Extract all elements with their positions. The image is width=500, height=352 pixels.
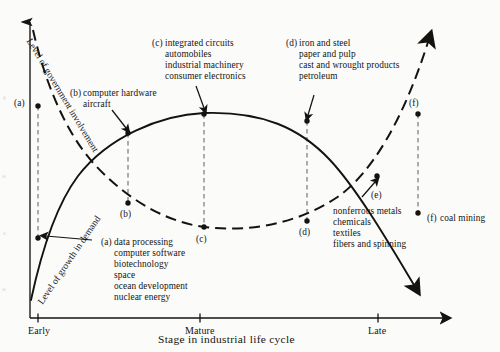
x-tick-late: Late [368,325,386,337]
callout-d: (d) iron and steel paper and pulp cast a… [286,38,399,82]
callout-c-tag: (c) [152,38,165,49]
callout-a-item-1: computer software [114,248,188,259]
callout-e-item-2: textiles [333,228,406,239]
callout-f-tag: (f) [427,213,440,224]
callout-c-item-0: integrated circuits [165,38,246,49]
x-axis [30,314,443,323]
diagram-canvas [0,0,500,352]
leader-c [196,86,204,108]
marker-c-bottom [201,224,206,229]
callout-a: (a) data processing computer software bi… [101,237,188,303]
callout-b-tag: (b) [70,88,83,99]
callout-f-item-0: coal mining [440,213,485,224]
callout-c: (c) integrated circuits automobiles indu… [152,38,246,82]
callout-e-item-3: fibers and spinning [333,239,406,250]
scan-artifact [3,96,6,100]
callout-c-item-3: consumer electronics [165,71,246,82]
callout-d-item-0: iron and steel [299,38,399,49]
callout-d-item-1: paper and pulp [299,49,399,60]
callout-a-item-4: ocean development [114,281,188,292]
marker-d-top [304,118,309,123]
marker-f-bottom [415,210,420,215]
scan-artifact [3,232,6,235]
callout-a-item-5: nuclear energy [114,292,188,303]
point-label-f: (f) [409,98,419,109]
callout-b: (b) computer hardware aircraft [70,88,157,110]
callout-e: nonferrous metals chemicals textiles fib… [333,206,406,250]
marker-f-top [415,111,420,116]
callout-a-item-3: space [114,270,188,281]
callout-a-item-2: biotechnology [114,259,188,270]
point-label-c: (c) [196,234,207,245]
callout-b-item-1: aircraft [83,99,157,110]
point-label-b: (b) [120,209,131,220]
callout-e-item-1: chemicals [333,217,406,228]
marker-b-top [125,130,130,135]
point-label-a: (a) [14,98,25,109]
callout-a-tag: (a) [101,237,114,248]
callout-d-tag: (d) [286,38,299,49]
callout-b-item-0: computer hardware [83,88,157,99]
callout-c-item-2: industrial machinery [165,60,246,71]
marker-a-top [35,103,40,108]
marker-c-top [201,111,206,116]
marker-e [374,173,379,178]
point-label-d: (d) [299,227,310,238]
marker-b-bottom [125,200,130,205]
callout-f: (f) coal mining [427,213,485,224]
leader-b [112,110,126,128]
figure-title: Stage in industrial life cycle [158,333,295,346]
callout-a-item-0: data processing [114,237,188,248]
point-label-e: (e) [371,190,382,201]
scan-artifact [2,175,6,178]
leader-d [308,95,314,115]
marker-a-bottom [35,235,40,240]
scan-artifact [2,288,6,291]
callout-e-item-0: nonferrous metals [333,206,406,217]
marker-d-bottom [304,218,309,223]
callout-d-item-2: cast and wrought products [299,60,399,71]
industrial-life-cycle-figure: Level of government involvement Level of… [0,0,500,352]
x-tick-early: Early [28,325,50,337]
callout-c-item-1: automobiles [165,49,246,60]
callout-d-item-3: petroleum [299,71,399,82]
